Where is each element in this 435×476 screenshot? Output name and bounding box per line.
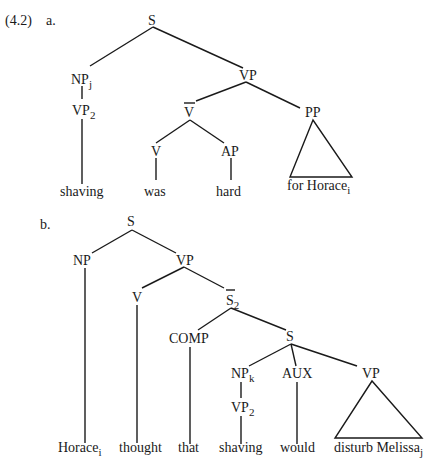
leaf-shaving: shaving — [60, 184, 104, 199]
node-np: NP — [73, 253, 91, 268]
leaf-shaving: shaving — [219, 440, 263, 455]
node-s-embedded: S — [286, 329, 294, 344]
edge-s-aux — [291, 344, 296, 366]
tree-a-label: a. — [46, 13, 56, 28]
node-v: V — [132, 290, 142, 305]
pp-triangle — [290, 120, 352, 177]
tree-b-label: b. — [40, 217, 51, 232]
node-s: S — [148, 13, 156, 28]
edge-vp-v — [142, 267, 184, 288]
edge-vp-pp — [246, 82, 300, 108]
node-aux: AUX — [282, 366, 312, 381]
leaf-disturb-melissa: disturb Melissaj — [334, 440, 423, 458]
vp-triangle — [335, 381, 422, 438]
edge-s-vp — [291, 344, 357, 366]
node-vp: VP — [176, 253, 194, 268]
node-vp: VP — [239, 68, 257, 83]
edge-vp-vbar — [196, 82, 246, 101]
edge-sbar-comp — [198, 308, 231, 330]
leaf-horace: Horacei — [58, 440, 101, 458]
node-vp2: VP2 — [231, 400, 254, 418]
edge-s-vp — [153, 27, 243, 68]
node-v: V — [151, 144, 161, 159]
example-number: (4.2) — [5, 13, 32, 29]
node-vp2: VP2 — [72, 103, 95, 121]
node-vp-embedded: VP — [362, 366, 380, 381]
node-s: S — [127, 214, 135, 229]
node-pp: PP — [305, 105, 321, 120]
edge-s-np — [92, 230, 132, 253]
edge-s-np — [90, 27, 153, 66]
leaf-would: would — [280, 440, 315, 455]
leaf-thought: thought — [119, 440, 162, 455]
leaf-was: was — [144, 184, 166, 199]
tree-a: (4.2) a. S NPj VP2 VP V V AP PP shaving … — [5, 13, 352, 199]
node-ap: AP — [221, 144, 239, 159]
leaf-for-horace: for Horacei — [287, 178, 350, 196]
tree-b: b. S NP VP V S2 COMP S NPk VP2 AUX VP Ho… — [40, 214, 423, 458]
edge-s-npk — [249, 344, 291, 366]
edge-vp-sbar — [184, 267, 224, 288]
node-comp: COMP — [169, 331, 209, 346]
leaf-that: that — [178, 440, 199, 455]
leaf-hard: hard — [216, 184, 241, 199]
edge-sbar-s — [231, 308, 286, 330]
syntax-tree-figure: (4.2) a. S NPj VP2 VP V V AP PP shaving … — [0, 0, 435, 476]
node-np-k: NPk — [231, 366, 255, 384]
node-v-bar: V — [184, 105, 194, 120]
edge-vbar-ap — [190, 120, 224, 143]
edge-vbar-v — [156, 120, 190, 143]
edge-s-vp — [132, 230, 176, 253]
